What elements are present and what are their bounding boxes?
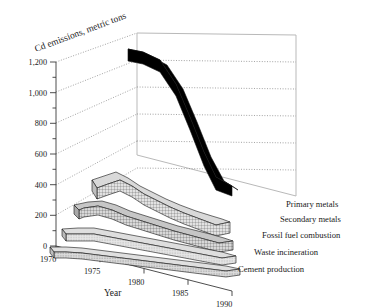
- chart-container: 1,200 1,000 800 600 400 200 0 Cd emissio…: [0, 0, 371, 308]
- x-axis-title: Year: [104, 288, 122, 298]
- y-tick-label: 200: [35, 211, 47, 220]
- series-label-secondary-metals: Secondary metals: [280, 214, 342, 224]
- x-tick-label: 1975: [84, 267, 100, 276]
- y-tick-label: 1,000: [29, 89, 47, 98]
- y-tick-label: 0: [43, 242, 47, 251]
- y-tick-label: 1,200: [29, 58, 47, 67]
- x-tick-label: 1980: [128, 278, 144, 287]
- series-label-waste-incineration: Waste incineration: [254, 247, 319, 257]
- cd-emissions-3d-area-chart: 1,200 1,000 800 600 400 200 0 Cd emissio…: [0, 0, 371, 308]
- x-tick-label: 1985: [172, 289, 188, 298]
- x-tick-label: 1990: [216, 300, 232, 308]
- y-tick-label: 600: [35, 150, 47, 159]
- y-tick-label: 400: [35, 181, 47, 190]
- series-label-fossil-fuel-combustion: Fossil fuel combustion: [262, 230, 341, 240]
- series-label-primary-metals: Primary metals: [286, 199, 339, 209]
- series-label-cement-production: Cement production: [238, 264, 305, 274]
- y-tick-label: 800: [35, 119, 47, 128]
